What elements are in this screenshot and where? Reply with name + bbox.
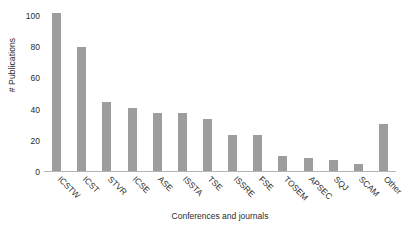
bar <box>203 119 212 172</box>
x-axis-title: Conferences and journals <box>44 211 396 221</box>
bar <box>304 158 313 172</box>
y-tick-label: 0 <box>6 167 40 177</box>
x-tick-label: FSE <box>257 174 276 193</box>
y-tick-label: 100 <box>6 11 40 21</box>
bar <box>228 135 237 172</box>
x-tick-label: SCAM <box>357 174 381 198</box>
bar-chart-figure: # Publications 020406080100 ICSTWICSTSTV… <box>0 0 404 227</box>
bar <box>128 108 137 172</box>
bar <box>379 124 388 172</box>
x-tick-label: ISSRE <box>231 174 256 199</box>
x-axis-tick-labels: ICSTWICSTSTVRICSEASEISSTATSEISSREFSETOSE… <box>44 174 396 208</box>
bar <box>178 113 187 172</box>
y-axis-tick-labels: 020406080100 <box>2 8 40 172</box>
x-tick-label: STVR <box>106 174 129 197</box>
x-tick-label: APSEC <box>307 174 334 201</box>
bar <box>253 135 262 172</box>
x-tick-label: Other <box>382 174 404 196</box>
plot-area <box>44 8 396 172</box>
y-tick-label: 40 <box>6 105 40 115</box>
x-axis-line <box>44 171 396 172</box>
bar <box>77 47 86 172</box>
x-tick-label: SQJ <box>332 174 351 193</box>
x-tick-label: ASE <box>156 174 175 193</box>
x-tick-label: TOSEM <box>282 174 310 202</box>
bar <box>52 13 61 172</box>
x-tick-label: ICSE <box>131 174 152 195</box>
x-tick-label: ICSTW <box>55 174 81 200</box>
y-tick-label: 80 <box>6 42 40 52</box>
x-tick-label: ICST <box>81 174 102 195</box>
y-tick-label: 20 <box>6 136 40 146</box>
bars-layer <box>44 8 396 172</box>
bar <box>278 156 287 172</box>
bar <box>102 102 111 172</box>
x-tick-label: ISSTA <box>181 174 205 198</box>
bar <box>153 113 162 172</box>
x-tick-label: TSE <box>206 174 225 193</box>
y-tick-label: 60 <box>6 73 40 83</box>
